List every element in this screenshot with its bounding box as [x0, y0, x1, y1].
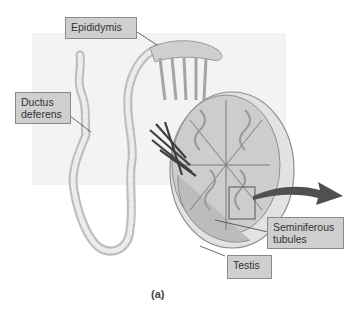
label-ductus-line2: deferens: [21, 108, 65, 120]
label-ductus-deferens: Ductus deferens: [15, 92, 71, 124]
figure-caption: (a): [151, 288, 164, 300]
testis-illustration: [0, 0, 359, 313]
label-epididymis-text: Epididymis: [71, 21, 122, 33]
label-seminiferous-line2: tubules: [273, 233, 338, 245]
label-epididymis: Epididymis: [65, 17, 137, 39]
label-testis-text: Testis: [233, 259, 260, 271]
label-seminiferous-line1: Seminiferous: [273, 221, 338, 233]
label-ductus-line1: Ductus: [21, 96, 65, 108]
label-seminiferous-tubules: Seminiferous tubules: [267, 217, 344, 249]
label-testis: Testis: [227, 255, 272, 279]
